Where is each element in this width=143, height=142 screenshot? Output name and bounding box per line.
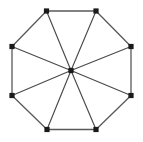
graph-node-hub	[68, 68, 73, 73]
graph-node-v3	[128, 44, 133, 49]
graph-node-v5	[93, 127, 98, 132]
graph-node-v4	[128, 93, 133, 98]
graph-node-v2	[93, 8, 98, 13]
graph-node-v6	[44, 127, 49, 132]
wheel-graph-canvas	[0, 0, 143, 142]
graph-node-v8	[9, 44, 14, 49]
graph-node-v7	[9, 93, 14, 98]
graph-figure	[0, 0, 143, 142]
graph-node-v1	[44, 8, 49, 13]
